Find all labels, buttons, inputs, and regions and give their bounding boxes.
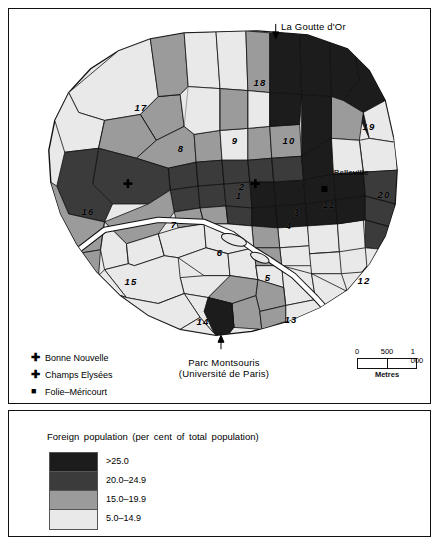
- arrondissement-label-8: 8: [178, 143, 184, 154]
- arrondissement-label-20: 20: [378, 189, 391, 200]
- arrondissement-label-10: 10: [283, 135, 296, 146]
- legend-panel: Foreign population (per cent of total po…: [8, 410, 431, 537]
- legend-label-5-14: 5.0–14.9: [106, 509, 146, 528]
- legend-swatch-20-24: [50, 472, 97, 491]
- arrondissement-label-7: 7: [171, 219, 177, 230]
- legend-label-20-24: 20.0–24.9: [106, 471, 146, 490]
- arrondissement-label-15: 15: [125, 276, 138, 287]
- legend-label-over-25: >25.0: [106, 452, 146, 471]
- cross-marker-icon: ✚: [31, 352, 45, 363]
- arrondissement-label-11: 11: [323, 199, 335, 210]
- arrondissement-label-1: 1: [236, 190, 242, 201]
- scale-bar: 0 500 1 000 Metres: [357, 347, 429, 379]
- arrondissement-label-19: 19: [363, 121, 376, 132]
- arrondissement-label-3: 3: [294, 207, 300, 218]
- legend-swatch-15-19: [50, 491, 97, 510]
- place-label-belleville: Belleville: [334, 168, 369, 177]
- legend-labels: >25.0 20.0–24.9 15.0–19.9 5.0–14.9: [106, 452, 146, 528]
- key-label-folie-mericourt: Folie–Méricourt: [45, 387, 107, 397]
- scale-tick-0: 0: [355, 347, 359, 356]
- scale-box: [357, 358, 417, 369]
- legend-swatch-5-14: [50, 510, 97, 529]
- annotation-parc-montsouris: Parc Montsouris (Université de Paris): [159, 357, 289, 379]
- arrondissement-label-6: 6: [217, 247, 223, 258]
- scale-caption: Metres: [357, 370, 417, 379]
- legend-title: Foreign population (per cent of total po…: [47, 431, 259, 442]
- key-label-bonne-nouvelle: Bonne Nouvelle: [45, 353, 109, 363]
- square-marker-icon: ■: [31, 387, 45, 396]
- key-row-folie-mericourt: ■ Folie–Méricourt: [31, 383, 113, 400]
- key-label-champs-elysees: Champs Elysées: [45, 370, 113, 380]
- arrondissement-label-12: 12: [358, 275, 371, 286]
- arrondissement-label-4: 4: [286, 220, 292, 231]
- scale-tick-labels: 0 500 1 000: [357, 347, 429, 357]
- arrondissement-label-16: 16: [82, 206, 95, 217]
- paris-arrondissement-choropleth: [9, 9, 430, 403]
- key-row-champs-elysees: ✚ Champs Elysées: [31, 366, 113, 383]
- landmark-key: ✚ Bonne Nouvelle ✚ Champs Elysées ■ Foli…: [31, 349, 113, 400]
- scale-segment: [358, 359, 388, 368]
- legend-swatch-over-25: [50, 453, 97, 472]
- folie-mericourt-marker: [322, 186, 328, 192]
- legend-swatches: [49, 452, 98, 530]
- arrondissement-label-9: 9: [232, 135, 238, 146]
- key-row-bonne-nouvelle: ✚ Bonne Nouvelle: [31, 349, 113, 366]
- arrondissement-label-13: 13: [285, 314, 298, 325]
- scale-tick-500: 500: [381, 347, 394, 356]
- arrondissement-label-14: 14: [197, 316, 210, 327]
- page-root: 17 18 19 8 9 10 16 2 1 3 4 11 20 7 6 5 1…: [0, 0, 439, 545]
- cross-marker-icon: ✚: [31, 369, 45, 380]
- arrondissement-label-18: 18: [254, 77, 267, 88]
- map-panel: 17 18 19 8 9 10 16 2 1 3 4 11 20 7 6 5 1…: [8, 8, 431, 404]
- annotation-parc-montsouris-line1: Parc Montsouris: [159, 357, 289, 368]
- arrondissement-label-5: 5: [265, 272, 271, 283]
- legend-label-15-19: 15.0–19.9: [106, 490, 146, 509]
- annotation-la-goutte-dor: La Goutte d'Or: [281, 21, 346, 32]
- annotation-parc-montsouris-line2: (Université de Paris): [159, 368, 289, 379]
- arrondissement-label-17: 17: [135, 102, 148, 113]
- scale-tick-1000: 1 000: [411, 347, 424, 365]
